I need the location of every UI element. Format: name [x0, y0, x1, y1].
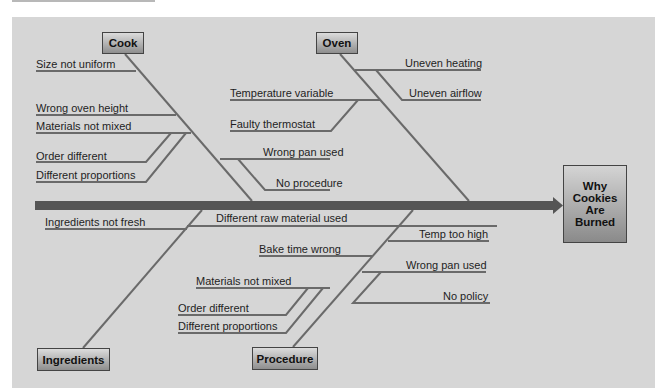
- spine: [35, 201, 555, 210]
- cause-label: Order different: [178, 302, 249, 314]
- cause-label: Size not uniform: [36, 58, 115, 70]
- cause-label: Uneven airflow: [409, 87, 482, 99]
- cause-label: Materials not mixed: [196, 275, 291, 287]
- cause-label: No procedure: [276, 177, 343, 189]
- category-cook: Cook: [102, 32, 144, 54]
- cause-label: Faulty thermostat: [230, 118, 315, 130]
- category-procedure: Procedure: [252, 347, 318, 370]
- cause-label: Different raw material used: [216, 212, 347, 224]
- cause-label: Temperature variable: [230, 87, 333, 99]
- procedure-bone: [293, 210, 413, 347]
- cause-label: Order different: [36, 150, 107, 162]
- effect-line: Why: [573, 180, 618, 192]
- cause-label: No policy: [443, 290, 488, 302]
- category-ingredients: Ingredients: [37, 348, 110, 371]
- spine-arrowhead: [553, 197, 563, 214]
- category-oven: Oven: [316, 32, 358, 54]
- effect-box: Why Cookies Are Burned: [563, 165, 627, 243]
- cause-label: Wrong oven height: [36, 102, 128, 114]
- oven-bone: [340, 54, 469, 201]
- effect-line: Burned: [573, 216, 618, 228]
- cause-label: Uneven heating: [405, 57, 482, 69]
- cause-label: Ingredients not fresh: [45, 216, 145, 228]
- cause-label: Wrong pan used: [263, 146, 344, 158]
- effect-line: Are: [573, 204, 618, 216]
- cause-label: Bake time wrong: [259, 243, 341, 255]
- cause-label: Different proportions: [178, 320, 277, 332]
- cause-label: Different proportions: [36, 169, 135, 181]
- cause-label: Temp too high: [419, 228, 488, 240]
- cause-label: Wrong pan used: [406, 259, 487, 271]
- cause-label: Materials not mixed: [36, 120, 131, 132]
- effect-line: Cookies: [573, 192, 618, 204]
